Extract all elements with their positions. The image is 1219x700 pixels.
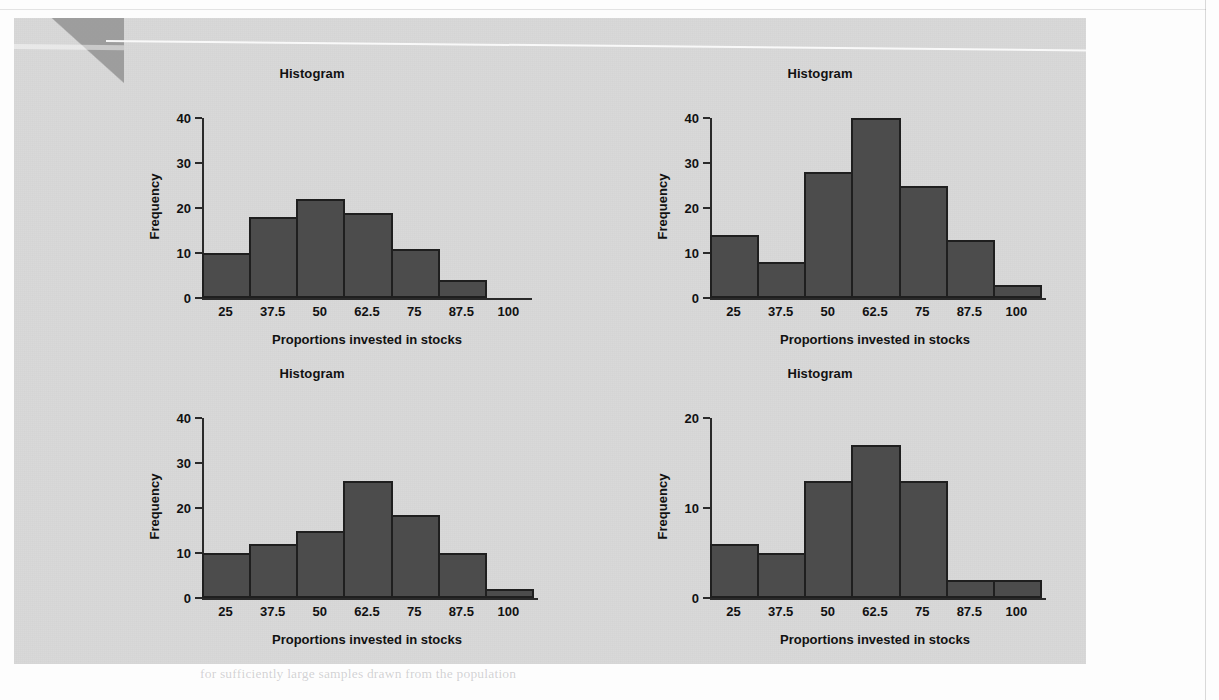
chart-title: Histogram — [92, 366, 532, 381]
y-axis-tick-label: 40 — [177, 111, 191, 126]
x-axis-tick-label: 62.5 — [862, 604, 887, 619]
histogram-bar-value: 15 — [298, 533, 299, 534]
chart-title: Histogram — [600, 366, 1040, 381]
x-axis-tick-label: 75 — [915, 304, 929, 319]
histogram-bar: 14 — [710, 235, 759, 298]
y-axis-tick — [703, 207, 710, 209]
y-axis-tick — [703, 597, 710, 599]
histogram-bar-value: 4 — [440, 282, 441, 283]
histogram-bottom-left: Histogram0102030401012152618.51022537.55… — [92, 366, 602, 664]
histogram-bar: 40 — [851, 118, 900, 298]
x-axis-tick-label: 37.5 — [260, 604, 285, 619]
y-axis-tick-label: 30 — [685, 156, 699, 171]
histogram-bar: 10 — [202, 553, 251, 598]
histogram-bar-value: 17 — [853, 447, 854, 448]
histogram-bar: 15 — [296, 531, 345, 599]
y-axis-label: Frequency — [147, 137, 162, 277]
histogram-bar-value: 5 — [759, 555, 760, 556]
y-axis-tick-label: 10 — [177, 246, 191, 261]
y-axis-tick-label: 0 — [692, 591, 699, 606]
histogram-bar-value: 10 — [204, 555, 205, 556]
histogram-bar-value: 2 — [487, 591, 488, 592]
x-axis-tick-label: 100 — [1006, 604, 1028, 619]
histogram-bar-value: 28 — [806, 174, 807, 175]
histogram-bar-value: 3 — [995, 287, 996, 288]
histogram-bar: 5 — [757, 553, 806, 598]
histogram-bar-value: 18 — [251, 219, 252, 220]
y-axis-tick-label: 20 — [685, 201, 699, 216]
x-axis-tick-label: 37.5 — [768, 304, 793, 319]
histogram-bottom-right: Histogram0102065131713222537.55062.57587… — [600, 366, 1086, 664]
y-axis-tick — [703, 252, 710, 254]
chart-title: Histogram — [92, 66, 532, 81]
plot-area: 0102030401012152618.51022537.55062.57587… — [202, 418, 532, 598]
y-axis-tick — [703, 507, 710, 509]
x-axis-tick-label: 37.5 — [768, 604, 793, 619]
x-axis-line — [710, 298, 1046, 300]
histogram-bar: 25 — [899, 186, 948, 299]
histogram-bar: 6 — [710, 544, 759, 598]
chart-title: Histogram — [600, 66, 1040, 81]
histogram-bar: 2 — [993, 580, 1042, 598]
y-axis-tick-label: 0 — [692, 291, 699, 306]
x-axis-line — [202, 598, 538, 600]
y-axis-tick — [195, 162, 202, 164]
x-axis-tick-label: 75 — [407, 604, 421, 619]
histogram-bar: 10 — [438, 553, 487, 598]
x-axis-tick-label: 75 — [407, 304, 421, 319]
y-axis-tick — [195, 597, 202, 599]
x-axis-label: Proportions invested in stocks — [710, 332, 1040, 347]
y-axis-tick-label: 0 — [184, 291, 191, 306]
y-axis-tick-label: 10 — [685, 501, 699, 516]
histogram-bar: 3 — [993, 285, 1042, 299]
x-axis-label: Proportions invested in stocks — [202, 632, 532, 647]
x-axis-tick-label: 87.5 — [957, 304, 982, 319]
x-axis-line — [202, 298, 532, 300]
y-axis-tick — [703, 162, 710, 164]
histogram-bar: 11 — [391, 249, 440, 299]
page-edge-top — [0, 9, 1206, 10]
histogram-bar-value: 22 — [298, 201, 299, 202]
x-axis-tick-label: 62.5 — [354, 304, 379, 319]
y-axis-label: Frequency — [147, 437, 162, 577]
y-axis-tick-label: 10 — [177, 546, 191, 561]
plot-area: 010203040101822191142537.55062.57587.510… — [202, 118, 532, 298]
histogram-bar: 19 — [343, 213, 392, 299]
y-axis-tick — [195, 117, 202, 119]
plot-area: 0102030401482840251332537.55062.57587.51… — [710, 118, 1040, 298]
y-axis-label: Frequency — [655, 437, 670, 577]
histogram-bar: 18.5 — [391, 515, 440, 598]
x-axis-tick-label: 100 — [1006, 304, 1028, 319]
histogram-bar: 13 — [899, 481, 948, 598]
histogram-bar-value: 10 — [440, 555, 441, 556]
x-axis-tick-label: 50 — [313, 604, 327, 619]
histogram-bar-value: 13 — [901, 483, 902, 484]
histogram-bar: 28 — [804, 172, 853, 298]
histogram-bar: 13 — [946, 240, 995, 299]
scan-streak-highlight — [106, 40, 1086, 52]
histogram-top-right: Histogram0102030401482840251332537.55062… — [600, 66, 1086, 368]
y-axis-tick-label: 20 — [177, 501, 191, 516]
y-axis-tick-label: 20 — [685, 411, 699, 426]
y-axis-tick-label: 30 — [177, 456, 191, 471]
histogram-bar-value: 2 — [995, 582, 996, 583]
y-axis-tick — [195, 252, 202, 254]
y-axis-tick — [195, 552, 202, 554]
y-axis-tick-label: 20 — [177, 201, 191, 216]
x-axis-tick-label: 50 — [821, 604, 835, 619]
x-axis-tick-label: 100 — [498, 304, 520, 319]
x-axis-tick-label: 87.5 — [449, 604, 474, 619]
x-axis-tick-label: 62.5 — [862, 304, 887, 319]
histogram-bar-value: 8 — [759, 264, 760, 265]
bleed-through-line: for sufficiently large samples drawn fro… — [200, 666, 516, 682]
x-axis-line — [710, 598, 1046, 600]
histogram-bar: 4 — [438, 280, 487, 298]
y-axis-tick — [195, 297, 202, 299]
y-axis-tick-label: 40 — [685, 111, 699, 126]
histogram-bar: 12 — [249, 544, 298, 598]
histogram-bar: 17 — [851, 445, 900, 598]
histogram-bar: 18 — [249, 217, 298, 298]
x-axis-tick-label: 25 — [218, 604, 232, 619]
histogram-bar-value: 19 — [345, 215, 346, 216]
x-axis-label: Proportions invested in stocks — [202, 332, 532, 347]
